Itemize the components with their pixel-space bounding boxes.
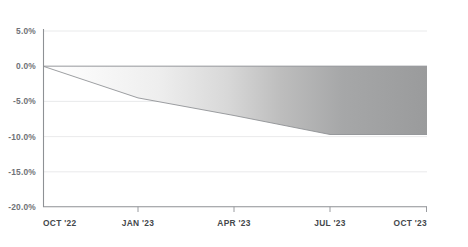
x-tick-label-jan-23: JAN '23: [122, 218, 155, 228]
y-axis-labels: 5.0% 0.0% -5.0% -10.0% -15.0% -20.0%: [8, 26, 36, 212]
y-tick-label-neg10: -10.0%: [8, 132, 36, 142]
y-tick-label-neg15: -15.0%: [8, 167, 36, 177]
x-tick-label-apr-23: APR '23: [217, 218, 250, 228]
x-tick-label-oct-22: OCT '22: [43, 218, 76, 228]
y-tick-label-0: 0.0%: [16, 61, 36, 71]
y-tick-label-5: 5.0%: [16, 26, 36, 36]
band-fill: [43, 66, 427, 134]
x-tick-marks: [138, 207, 427, 212]
y-tick-label-neg5: -5.0%: [13, 96, 36, 106]
x-tick-label-jul-23: JUL '23: [314, 218, 345, 228]
x-axis-labels: OCT '22 JAN '23 APR '23 JUL '23 OCT '23: [43, 218, 427, 228]
chart-container: 5.0% 0.0% -5.0% -10.0% -15.0% -20.0% OCT…: [0, 0, 468, 247]
y-tick-label-neg20: -20.0%: [8, 202, 36, 212]
band-area: [43, 66, 427, 134]
x-tick-label-oct-23: OCT '23: [394, 218, 427, 228]
area-chart: 5.0% 0.0% -5.0% -10.0% -15.0% -20.0% OCT…: [0, 0, 468, 247]
